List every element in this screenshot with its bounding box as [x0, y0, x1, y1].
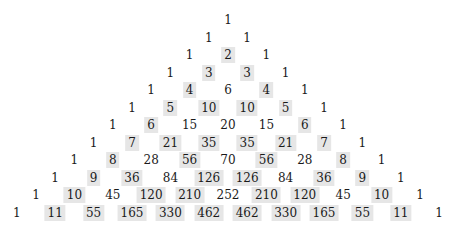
highlighted-entry: 55: [352, 205, 373, 221]
triangle-entry: 1: [375, 152, 389, 168]
highlighted-entry: 165: [118, 205, 147, 221]
triangle-entry: 1: [432, 205, 446, 221]
highlighted-entry: 10: [198, 100, 219, 116]
highlighted-entry: 3: [240, 65, 254, 81]
highlighted-entry: 21: [275, 135, 296, 151]
highlighted-entry: 330: [271, 205, 300, 221]
highlighted-entry: 6: [298, 117, 312, 133]
triangle-entry: 1: [317, 100, 331, 116]
highlighted-entry: 5: [279, 100, 293, 116]
highlighted-entry: 9: [356, 170, 370, 186]
triangle-entry: 20: [217, 117, 238, 133]
highlighted-entry: 7: [317, 135, 331, 151]
highlighted-entry: 8: [106, 152, 120, 168]
triangle-entry: 1: [413, 187, 427, 203]
triangle-entry: 1: [260, 47, 274, 63]
triangle-entry: 45: [333, 187, 354, 203]
triangle-entry: 1: [202, 30, 216, 46]
triangle-entry: 1: [183, 47, 197, 63]
highlighted-entry: 126: [233, 170, 262, 186]
triangle-entry: 1: [336, 117, 350, 133]
triangle-entry: 1: [144, 82, 158, 98]
highlighted-entry: 6: [144, 117, 158, 133]
highlighted-entry: 21: [160, 135, 181, 151]
triangle-entry: 1: [356, 135, 370, 151]
highlighted-entry: 56: [179, 152, 200, 168]
highlighted-entry: 9: [87, 170, 101, 186]
highlighted-entry: 36: [121, 170, 142, 186]
triangle-entry: 1: [10, 205, 24, 221]
highlighted-entry: 4: [183, 82, 197, 98]
highlighted-entry: 35: [198, 135, 219, 151]
highlighted-entry: 56: [256, 152, 277, 168]
triangle-entry: 1: [221, 12, 235, 28]
triangle-entry: 15: [256, 117, 277, 133]
triangle-entry: 1: [164, 65, 178, 81]
highlighted-entry: 11: [45, 205, 66, 221]
highlighted-entry: 35: [237, 135, 258, 151]
triangle-entry: 1: [68, 152, 82, 168]
highlighted-entry: 55: [83, 205, 104, 221]
pascal-triangle: 1111211331146411510105116152015611721353…: [0, 0, 457, 228]
triangle-entry: 1: [298, 82, 312, 98]
triangle-entry: 70: [217, 152, 238, 168]
highlighted-entry: 5: [164, 100, 178, 116]
highlighted-entry: 36: [313, 170, 334, 186]
triangle-entry: 45: [102, 187, 123, 203]
highlighted-entry: 11: [390, 205, 411, 221]
triangle-entry: 252: [214, 187, 243, 203]
highlighted-entry: 165: [310, 205, 339, 221]
triangle-entry: 1: [29, 187, 43, 203]
highlighted-entry: 210: [175, 187, 204, 203]
highlighted-entry: 8: [336, 152, 350, 168]
highlighted-entry: 10: [64, 187, 85, 203]
triangle-entry: 1: [125, 100, 139, 116]
triangle-entry: 1: [87, 135, 101, 151]
highlighted-entry: 120: [290, 187, 319, 203]
highlighted-entry: 10: [237, 100, 258, 116]
triangle-entry: 15: [179, 117, 200, 133]
highlighted-entry: 10: [371, 187, 392, 203]
triangle-entry: 84: [160, 170, 181, 186]
highlighted-entry: 462: [194, 205, 223, 221]
triangle-entry: 28: [294, 152, 315, 168]
highlighted-entry: 120: [137, 187, 166, 203]
triangle-entry: 1: [48, 170, 62, 186]
triangle-entry: 1: [106, 117, 120, 133]
highlighted-entry: 4: [260, 82, 274, 98]
triangle-entry: 28: [141, 152, 162, 168]
triangle-entry: 1: [394, 170, 408, 186]
triangle-entry: 1: [240, 30, 254, 46]
highlighted-entry: 126: [194, 170, 223, 186]
highlighted-entry: 3: [202, 65, 216, 81]
highlighted-entry: 330: [156, 205, 185, 221]
highlighted-entry: 2: [221, 47, 235, 63]
triangle-entry: 6: [221, 82, 235, 98]
highlighted-entry: 462: [233, 205, 262, 221]
triangle-entry: 84: [275, 170, 296, 186]
triangle-entry: 1: [279, 65, 293, 81]
highlighted-entry: 7: [125, 135, 139, 151]
highlighted-entry: 210: [252, 187, 281, 203]
